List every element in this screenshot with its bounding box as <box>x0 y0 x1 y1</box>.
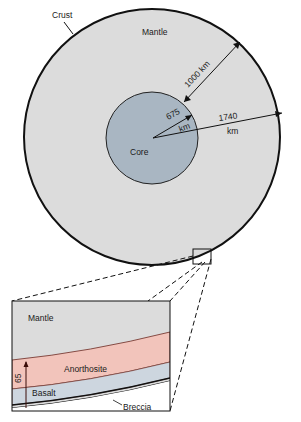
mantle-label: Mantle <box>142 27 168 37</box>
inset-thickness-label: 65 <box>13 373 23 383</box>
inset-mantle-label: Mantle <box>28 313 54 323</box>
crust-label: Crust <box>52 10 73 20</box>
crust-leader <box>64 22 73 34</box>
inset-basalt-label: Basalt <box>32 388 56 398</box>
inset-breccia-label: Breccia <box>123 402 152 412</box>
moon-structure-diagram: Crust Mantle 1000 km 675 km 1740 km Core <box>0 0 301 422</box>
label-1740-km: km <box>227 126 238 136</box>
core-label: Core <box>130 147 149 157</box>
moon-core <box>106 92 198 184</box>
inset-anorthosite-label: Anorthosite <box>64 364 107 374</box>
